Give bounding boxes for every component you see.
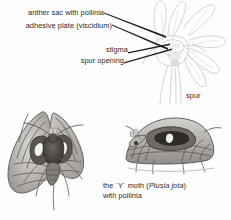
orchid-pollination-figure: anther sac with pollinia adhesive plate … — [0, 0, 231, 220]
label-spur-opening: spur opening — [0, 56, 124, 65]
label-anther-sac-text: anther sac with pollinia — [28, 8, 104, 17]
label-stigma: stigma — [0, 45, 128, 54]
label-spur-text: spur — [186, 91, 201, 100]
label-adhesive-plate-text: adhesive plate (viscidium) — [26, 21, 112, 30]
moth-wings-spread-illustration — [2, 100, 114, 218]
moth-caption: the `Y` moth (Plusia jota) with pollinia — [103, 181, 186, 200]
caption-line-1: the `Y` moth (Plusia jota) — [103, 181, 186, 191]
caption-line-2: with pollinia — [103, 191, 186, 201]
moth-resting-illustration — [120, 110, 224, 178]
label-spur: spur — [186, 91, 201, 100]
caption-prefix: the `Y` moth ( — [103, 181, 149, 190]
label-adhesive-plate: adhesive plate (viscidium) — [0, 21, 112, 30]
label-anther-sac: anther sac with pollinia — [0, 8, 104, 17]
caption-species-name: Plusia jota — [149, 181, 184, 190]
caption-suffix: ) — [184, 181, 187, 190]
label-stigma-text: stigma — [106, 45, 128, 54]
label-spur-opening-text: spur opening — [81, 56, 124, 65]
